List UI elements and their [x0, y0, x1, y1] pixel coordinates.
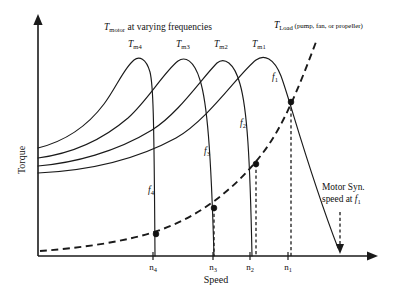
- load-curve-title: TLoad (pump, fan, or propeller): [274, 20, 363, 31]
- sync-annotation-text: speed at: [322, 194, 355, 204]
- freq-label-f2-subscript: 2: [243, 122, 246, 129]
- sync-annotation-subscript: 1: [357, 198, 360, 205]
- operating-points-group: [153, 99, 294, 237]
- sync-speed-arrow-icon: [336, 244, 344, 254]
- curve-t-m4: [38, 58, 155, 256]
- tick-label-subscript: 1: [289, 266, 292, 273]
- curve-label-Tm2: Tm2: [214, 39, 228, 50]
- x-axis-title: Speed: [204, 274, 228, 285]
- freq-label-f2: f2: [240, 118, 246, 129]
- tick-label-subscript: 3: [214, 266, 217, 273]
- operating-point-n1: [288, 99, 294, 105]
- y-axis-arrow-icon: [33, 14, 42, 25]
- x-axis-arrow-icon: [367, 251, 378, 260]
- curve-label-Tm1-subscript: m1: [257, 43, 265, 50]
- load-title-text: (pump, fan, or propeller): [293, 22, 363, 30]
- operating-point-n2: [253, 161, 259, 167]
- curve-t-m2: [38, 61, 252, 256]
- axes-group: [33, 14, 378, 261]
- curve-label-Tm2-subscript: m2: [219, 43, 227, 50]
- operating-point-n3: [211, 205, 217, 211]
- freq-label-f1: f1: [272, 72, 278, 83]
- motor-curves-title: Tmotor at varying frequencies: [104, 22, 212, 33]
- freq-label-f4: f4: [148, 185, 155, 196]
- curves-group: [38, 42, 338, 256]
- curve-label-Tm4-subscript: m4: [133, 43, 142, 50]
- motor-title-text: at varying frequencies: [125, 22, 212, 32]
- curve-labels-group: Tm4Tm3Tm2Tm1: [128, 39, 266, 50]
- y-axis-title: Torque: [16, 145, 27, 174]
- curve-t-m3: [38, 59, 214, 256]
- operating-point-n4: [153, 231, 159, 237]
- freq-label-f1-subscript: 1: [275, 76, 278, 83]
- motor-title-subscript: motor: [109, 26, 126, 33]
- tick-labels-group: n4n3n2n1: [149, 262, 292, 273]
- curve-label-Tm4: Tm4: [128, 39, 142, 50]
- load-title-subscript: Load: [279, 24, 293, 31]
- torque-speed-diagram: Tmotor at varying frequencies TLoad (pum…: [0, 0, 397, 303]
- curve-label-Tm3: Tm3: [176, 39, 190, 50]
- tick-label-n1: n1: [284, 262, 292, 273]
- frequency-labels-group: f4f3f2f1: [148, 72, 278, 196]
- tick-label-n2: n2: [246, 262, 254, 273]
- tick-label-subscript: 4: [154, 266, 158, 273]
- tick-label-subscript: 2: [251, 266, 254, 273]
- diagram-canvas: Tmotor at varying frequencies TLoad (pum…: [0, 0, 397, 303]
- tick-label-n4: n4: [149, 262, 158, 273]
- sync-speed-annotation-line2: speed at f1: [322, 194, 361, 205]
- curve-t-m1: [38, 57, 338, 248]
- tick-label-n3: n3: [209, 262, 217, 273]
- curve-label-Tm3-subscript: m3: [181, 43, 190, 50]
- sync-speed-annotation-line1: Motor Syn.: [322, 182, 365, 192]
- sync-speed-marker: [336, 212, 344, 254]
- curve-label-Tm1: Tm1: [252, 39, 266, 50]
- drop-lines-group: [214, 102, 291, 256]
